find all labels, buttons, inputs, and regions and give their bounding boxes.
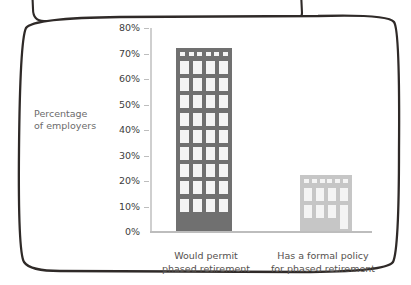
tick-mark-50	[144, 105, 149, 106]
bar-window	[328, 188, 336, 201]
bar-window	[180, 181, 189, 194]
bar-window	[328, 205, 336, 218]
bar-window-small	[214, 52, 219, 56]
x-axis-line	[150, 231, 372, 233]
bar-window	[206, 199, 215, 212]
bar-window	[219, 181, 228, 194]
bar-formal-policy[interactable]	[300, 175, 352, 231]
bar-window	[206, 61, 215, 74]
bar-window	[219, 61, 228, 74]
bar-window	[219, 199, 228, 212]
bar-window	[206, 113, 215, 126]
bar-window	[219, 130, 228, 143]
bar-window	[193, 130, 202, 143]
bar-window	[180, 95, 189, 108]
y-axis-title-line-2: of employers	[34, 120, 108, 132]
tick-mark-40	[144, 130, 149, 131]
bar-window	[193, 95, 202, 108]
bar-window	[206, 78, 215, 91]
bar-window	[206, 147, 215, 160]
bar-window	[180, 130, 189, 143]
bar-window	[193, 181, 202, 194]
bar-window-small	[312, 179, 317, 183]
y-tick-10: 10%	[104, 201, 140, 213]
bar-window	[180, 78, 189, 91]
y-tick-70: 70%	[104, 48, 140, 60]
y-tick-40: 40%	[104, 124, 140, 136]
bars-container	[152, 28, 372, 231]
bar-window-small	[180, 52, 185, 56]
y-tick-50: 50%	[104, 99, 140, 111]
bar-window	[193, 61, 202, 74]
bar-window	[193, 147, 202, 160]
tick-mark-10	[144, 207, 149, 208]
chart-plot-area: Percentage of employers 80% 70% 60% 50% …	[0, 0, 411, 285]
tick-mark-60	[144, 79, 149, 80]
y-tick-60: 60%	[104, 73, 140, 85]
x-category-label-2-line-2: for phased retirement	[262, 263, 384, 276]
bar-window-small	[335, 179, 340, 183]
bar-window	[193, 78, 202, 91]
bar-door	[340, 205, 348, 229]
x-category-label-1-line-1: Would permit	[150, 250, 262, 263]
bar-window	[206, 130, 215, 143]
bar-window	[206, 95, 215, 108]
x-category-label-1: Would permit phased retirement	[150, 250, 262, 275]
y-axis-title: Percentage of employers	[34, 108, 108, 132]
y-tick-0: 0%	[104, 226, 140, 238]
y-tick-20: 20%	[104, 175, 140, 187]
x-category-label-1-line-2: phased retirement	[150, 263, 262, 276]
bar-window	[193, 113, 202, 126]
bar-window	[219, 164, 228, 177]
y-axis-title-line-1: Percentage	[34, 108, 108, 120]
bar-window-small	[223, 52, 228, 56]
bar-window-small	[304, 179, 309, 183]
bar-window	[180, 113, 189, 126]
tick-mark-20	[144, 181, 149, 182]
bar-window	[219, 95, 228, 108]
bar-window	[219, 147, 228, 160]
y-tick-80: 80%	[104, 22, 140, 34]
bar-window-small	[197, 52, 202, 56]
bar-window-small	[206, 52, 211, 56]
bar-window	[193, 199, 202, 212]
bar-would-permit[interactable]	[176, 48, 232, 231]
bar-window	[180, 164, 189, 177]
bar-window	[206, 181, 215, 194]
y-tick-30: 30%	[104, 150, 140, 162]
bar-window	[219, 113, 228, 126]
y-axis-tick-labels: 80% 70% 60% 50% 40% 30% 20% 10% 0%	[104, 28, 140, 232]
tick-mark-30	[144, 156, 149, 157]
bar-window-small	[320, 179, 325, 183]
x-category-label-2: Has a formal policy for phased retiremen…	[262, 250, 384, 275]
bar-window	[180, 147, 189, 160]
tick-mark-70	[144, 54, 149, 55]
bar-window	[180, 199, 189, 212]
bar-window-small	[189, 52, 194, 56]
bar-window	[206, 164, 215, 177]
bar-window	[193, 164, 202, 177]
bar-window	[180, 61, 189, 74]
bar-window	[316, 205, 324, 218]
bar-window	[316, 188, 324, 201]
bar-window-small	[327, 179, 332, 183]
bar-window	[340, 188, 348, 201]
bar-window-small	[343, 179, 348, 183]
bar-window	[304, 188, 312, 201]
x-category-label-2-line-1: Has a formal policy	[262, 250, 384, 263]
tick-mark-80	[144, 28, 149, 29]
bar-window	[219, 78, 228, 91]
bar-window	[304, 205, 312, 218]
chart-screenshot: Percentage of employers 80% 70% 60% 50% …	[0, 0, 411, 285]
